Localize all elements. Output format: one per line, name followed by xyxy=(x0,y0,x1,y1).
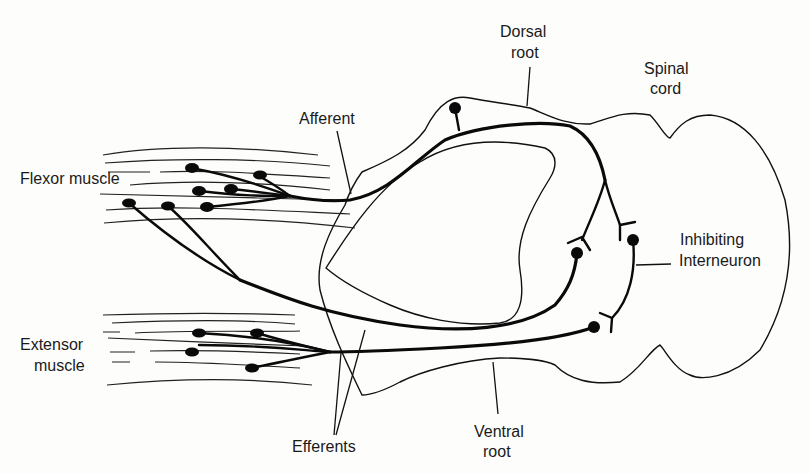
leader-lines xyxy=(334,67,671,435)
label-inhibiting: Inhibiting xyxy=(680,231,744,248)
label-extensor: Extensor xyxy=(20,336,84,353)
label-flexor-muscle: Flexor muscle xyxy=(20,170,120,187)
label-muscle-extensor: muscle xyxy=(34,357,85,374)
label-ventral: Ventral xyxy=(474,423,524,440)
label-root-dorsal: root xyxy=(511,44,539,61)
reflex-arc-diagram: Dorsal root Spinal cord Afferent Flexor … xyxy=(0,0,809,474)
label-afferent: Afferent xyxy=(299,110,355,127)
label-spinal: Spinal xyxy=(644,60,688,77)
flexor-endplates xyxy=(122,163,267,212)
inhibiting-interneuron xyxy=(600,234,639,332)
label-cord: cord xyxy=(650,80,681,97)
label-interneuron: Interneuron xyxy=(679,252,761,269)
label-dorsal: Dorsal xyxy=(500,23,546,40)
flexor-efferent xyxy=(129,203,583,329)
label-root-ventral: root xyxy=(483,443,511,460)
label-efferents: Efferents xyxy=(292,438,356,455)
